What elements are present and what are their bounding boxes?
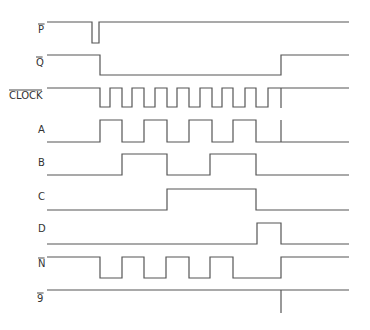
waveform-c xyxy=(47,189,349,210)
waveforms xyxy=(47,22,349,290)
signal-label-n: N xyxy=(38,258,45,269)
signal-label-a: A xyxy=(38,124,45,135)
waveform-q xyxy=(47,55,349,75)
signal-label-d: D xyxy=(38,223,46,234)
signal-label-q: Q xyxy=(36,57,44,68)
waveform-n xyxy=(47,257,349,278)
waveform-a xyxy=(47,120,349,142)
signal-label-clock: CLOCK xyxy=(9,90,43,101)
signal-label-p: P xyxy=(38,24,44,35)
signal-labels: PQCLOCKABCDN9 xyxy=(9,24,46,304)
waveform-p xyxy=(47,22,349,43)
waveform-d xyxy=(47,223,349,244)
timing-diagram: PQCLOCKABCDN9 xyxy=(0,0,370,330)
signal-label-b: B xyxy=(38,157,45,168)
signal-label-9: 9 xyxy=(37,293,43,304)
signal-label-c: C xyxy=(38,191,45,202)
waveform-clock xyxy=(47,88,349,107)
waveform-b xyxy=(47,154,349,175)
